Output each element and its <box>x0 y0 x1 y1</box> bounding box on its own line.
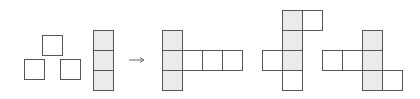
empty-square <box>61 60 81 80</box>
option-net-1[interactable] <box>163 31 243 91</box>
shaded-square <box>283 11 303 31</box>
option-net-3[interactable] <box>323 31 403 91</box>
shaded-square <box>363 71 383 91</box>
shaded-square <box>363 51 383 71</box>
empty-square <box>303 11 323 31</box>
empty-square <box>343 51 363 71</box>
empty-square <box>203 51 223 71</box>
empty-square <box>263 51 283 71</box>
shaded-square <box>94 31 114 51</box>
given-shaded-column <box>94 31 114 91</box>
empty-square <box>183 51 203 71</box>
cube-net-diagram <box>0 0 420 99</box>
option-net-2[interactable] <box>263 11 323 91</box>
empty-square <box>223 51 243 71</box>
arrow-icon <box>129 58 144 63</box>
shaded-square <box>283 31 303 51</box>
shaded-square <box>163 71 183 91</box>
shaded-square <box>363 31 383 51</box>
empty-square <box>43 36 63 56</box>
empty-square <box>25 60 45 80</box>
shaded-square <box>283 51 303 71</box>
empty-square <box>383 71 403 91</box>
empty-square <box>283 71 303 91</box>
given-loose-squares <box>25 36 81 80</box>
shaded-square <box>94 71 114 91</box>
shaded-square <box>163 51 183 71</box>
empty-square <box>323 51 343 71</box>
shaded-square <box>94 51 114 71</box>
shaded-square <box>163 31 183 51</box>
